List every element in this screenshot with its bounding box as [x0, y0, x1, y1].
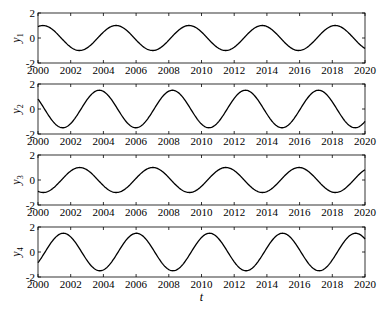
x-tick-label: 2004 [92, 206, 115, 218]
x-tick-label: 2004 [92, 278, 115, 290]
series-line [38, 90, 365, 128]
x-tick-label: 2008 [158, 206, 181, 218]
y-tick-label: -2 [26, 128, 35, 140]
x-tick-label: 2014 [256, 206, 279, 218]
x-tick-label: 2016 [289, 206, 312, 218]
x-tick-label: 2008 [158, 64, 181, 76]
y-tick-label: 2 [30, 149, 36, 161]
series-line [38, 233, 365, 271]
x-tick-label: 2016 [289, 64, 312, 76]
y-tick-label: 0 [30, 103, 36, 115]
x-tick-label: 2020 [354, 135, 377, 147]
y-tick-label: 0 [30, 174, 36, 186]
x-tick-label: 2002 [60, 278, 82, 290]
x-tick-label: 2006 [125, 278, 148, 290]
x-tick-label: 2008 [158, 135, 181, 147]
panel-y1: 2000200220042006200820102012201420162018… [9, 7, 377, 76]
x-tick-label: 2020 [354, 64, 377, 76]
y-axis-label: y3 [9, 175, 25, 185]
x-tick-label: 2012 [223, 135, 245, 147]
x-tick-label: 2018 [321, 64, 344, 76]
y-tick-label: -2 [26, 199, 35, 211]
panel-y3: 2000200220042006200820102012201420162018… [9, 149, 377, 218]
x-tick-label: 2006 [125, 135, 148, 147]
series-line [38, 26, 365, 51]
x-tick-label: 2014 [256, 135, 279, 147]
y-tick-label: 2 [30, 78, 36, 90]
x-tick-label: 2010 [191, 64, 214, 76]
y-tick-label: -2 [26, 57, 35, 69]
x-tick-label: 2018 [321, 278, 344, 290]
x-tick-label: 2006 [125, 64, 148, 76]
y-axis-label: y2 [9, 104, 25, 114]
x-tick-label: 2010 [191, 278, 214, 290]
x-tick-label: 2012 [223, 206, 245, 218]
x-tick-label: 2016 [289, 278, 312, 290]
y-tick-label: 0 [30, 246, 36, 258]
x-tick-label: 2006 [125, 206, 148, 218]
x-tick-label: 2002 [60, 64, 82, 76]
x-tick-label: 2004 [92, 135, 115, 147]
x-tick-label: 2014 [256, 64, 279, 76]
y-tick-label: 0 [30, 32, 36, 44]
x-axis-label: t [200, 290, 204, 304]
x-tick-label: 2016 [289, 135, 312, 147]
x-tick-label: 2020 [354, 278, 377, 290]
y-axis-label: y1 [9, 33, 25, 43]
x-tick-label: 2020 [354, 206, 377, 218]
series-line [38, 168, 365, 193]
y-tick-label: 2 [30, 221, 36, 233]
x-tick-label: 2012 [223, 278, 245, 290]
chart-figure: 2000200220042006200820102012201420162018… [0, 0, 382, 311]
x-tick-label: 2014 [256, 278, 279, 290]
x-tick-label: 2010 [191, 135, 214, 147]
x-tick-label: 2018 [321, 135, 344, 147]
x-tick-label: 2010 [191, 206, 214, 218]
panel-y4: 2000200220042006200820102012201420162018… [9, 221, 377, 304]
axes-frame [38, 155, 365, 205]
x-tick-label: 2012 [223, 64, 245, 76]
axes-frame [38, 84, 365, 134]
y-tick-label: -2 [26, 271, 35, 283]
panel-y2: 2000200220042006200820102012201420162018… [9, 78, 377, 147]
y-axis-label: y4 [9, 247, 25, 257]
x-tick-label: 2018 [321, 206, 344, 218]
x-tick-label: 2004 [92, 64, 115, 76]
y-tick-label: 2 [30, 7, 36, 19]
axes-frame [38, 13, 365, 63]
x-tick-label: 2002 [60, 206, 82, 218]
x-tick-label: 2008 [158, 278, 181, 290]
x-tick-label: 2002 [60, 135, 82, 147]
